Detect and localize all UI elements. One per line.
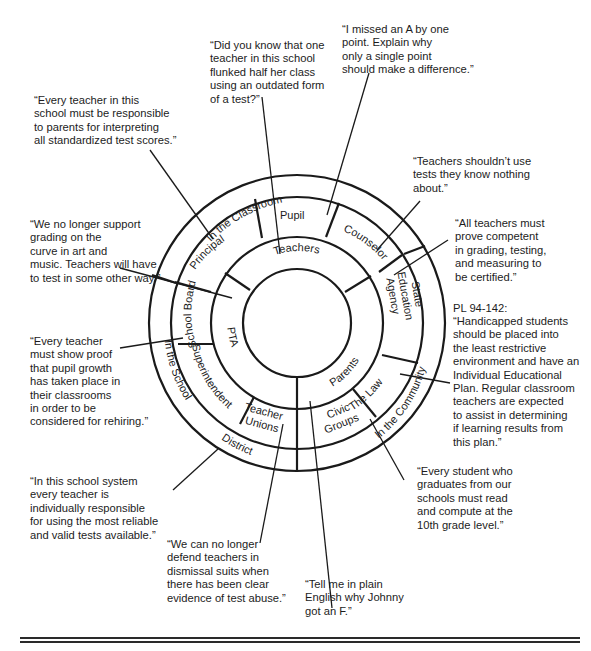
core-circle — [243, 269, 351, 377]
quote-teacher-flunked: “Did you know that one teacher in this s… — [210, 39, 324, 106]
quote-state-agency: “All teachers must prove competent in gr… — [455, 217, 546, 284]
label-pta: PTA — [225, 326, 241, 349]
label-the-law: The Law — [347, 376, 385, 413]
quote-civic: “Every student who graduates from our sc… — [417, 465, 513, 532]
quote-principal: “Every teacher in this school must be re… — [34, 94, 176, 148]
label-parents: Parents — [327, 354, 361, 388]
footer-rule-top — [20, 637, 580, 639]
quote-district: “In this school system every teacher is … — [30, 475, 158, 542]
quote-unions: “We can no longer defend teachers in dis… — [167, 538, 286, 605]
quote-law: “Handicapped students should be placed i… — [453, 315, 579, 449]
quote-superintendent: “Every teacher must show proof that pupi… — [30, 335, 148, 429]
footer-rule-bottom — [20, 641, 580, 643]
label-pupil: Pupil — [280, 209, 304, 221]
quote-school-board: “We no longer support grading on the cur… — [30, 218, 160, 285]
quote-parents: “Tell me in plain English why Johnny got… — [305, 578, 404, 618]
quote-pupil: “I missed an A by one point. Explain why… — [342, 23, 474, 77]
quote-law-heading: PL 94-142: — [453, 302, 507, 315]
quote-counselor: “Teachers shouldn’t use tests they know … — [413, 155, 531, 195]
label-school-board: School Board — [181, 279, 198, 350]
label-teachers: Teachers — [272, 241, 322, 257]
